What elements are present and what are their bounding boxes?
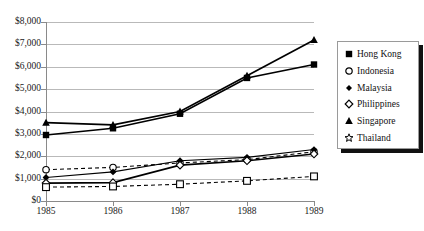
open-circle-icon (342, 63, 356, 79)
series-thailand (43, 173, 318, 191)
legend-marker (342, 80, 356, 96)
legend-item-thailand[interactable]: Thailand (342, 130, 418, 146)
legend-item-malaysia[interactable]: Malaysia (342, 80, 418, 96)
legend-label: Indonesia (357, 65, 394, 77)
chart-legend[interactable]: Hong KongIndonesiaMalaysiaPhilippinesSin… (337, 41, 419, 149)
open-diamond-icon (342, 96, 356, 112)
legend-item-singapore[interactable]: Singapore (342, 113, 418, 129)
legend-label: Thailand (357, 132, 391, 144)
data-point-filled-square (43, 132, 49, 138)
legend-marker (342, 113, 356, 129)
data-point-open-square (110, 183, 117, 190)
data-point-open-square (43, 184, 50, 191)
legend-item-hong-kong[interactable]: Hong Kong (342, 46, 418, 62)
data-point-open-square (244, 177, 251, 184)
filled-diamond-icon (342, 80, 356, 96)
data-point-open-square (177, 181, 184, 188)
legend-label: Malaysia (357, 82, 392, 94)
legend-item-philippines[interactable]: Philippines (342, 96, 418, 112)
legend-marker (342, 130, 356, 146)
line-chart: $0$1,000$2,000$3,000$4,000$5,000$6,000$7… (0, 0, 424, 231)
data-point-filled-square (311, 61, 317, 67)
data-point-filled-triangle (310, 36, 318, 43)
legend-marker (342, 63, 356, 79)
data-point-open-circle (43, 166, 49, 172)
legend-marker (342, 46, 356, 62)
series-singapore (42, 36, 318, 128)
legend-marker (342, 96, 356, 112)
legend-label: Singapore (357, 115, 396, 127)
series-hong-kong (43, 61, 317, 138)
filled-triangle-icon (342, 113, 356, 129)
open-star-icon (342, 130, 356, 146)
filled-square-icon (342, 46, 356, 62)
legend-item-indonesia[interactable]: Indonesia (342, 63, 418, 79)
legend-label: Hong Kong (357, 48, 402, 60)
legend-label: Philippines (357, 98, 400, 110)
data-point-open-square (311, 173, 318, 180)
